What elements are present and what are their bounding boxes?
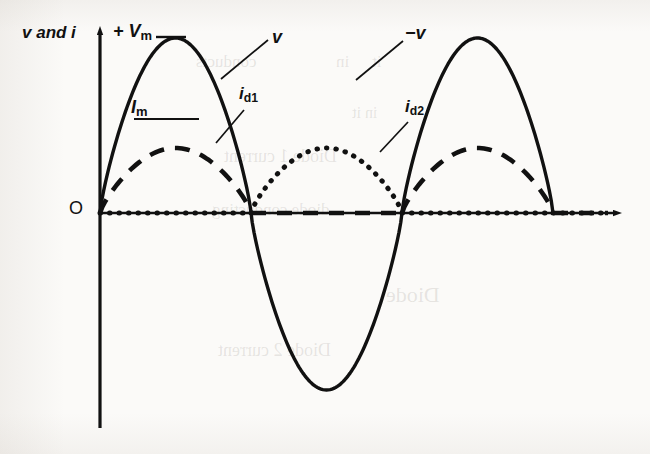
voltage-label-text: v — [272, 27, 282, 47]
diode2-current-label: id2 — [405, 98, 424, 117]
negative-voltage-label-text: −v — [405, 23, 426, 43]
diode1-current-label: id1 — [239, 85, 258, 104]
waveform-figure: conductsinitDiode 1 currentDiode 2 curre… — [0, 0, 650, 454]
y-axis-label-text: v and i — [22, 23, 76, 42]
negative-voltage-label: −v — [405, 24, 426, 42]
diode1-current-label-sub: d1 — [244, 91, 258, 105]
origin-label: O — [69, 199, 83, 217]
i-max-label-sub: m — [136, 104, 148, 119]
v-max-label-text: + V — [113, 21, 141, 41]
annotation-leaders — [134, 37, 408, 152]
leader-v — [221, 40, 268, 79]
leader-id1 — [216, 110, 244, 143]
leader-negv — [356, 41, 403, 80]
leader-id2 — [380, 122, 408, 152]
voltage-label: v — [272, 28, 282, 46]
diode2-current-label-sub: d2 — [410, 104, 424, 118]
v-max-label-sub: m — [141, 28, 153, 43]
axes — [100, 34, 614, 428]
waveform-plot — [0, 0, 650, 454]
v-max-label: + Vm — [113, 22, 152, 43]
i-max-label: Im — [131, 98, 148, 119]
y-axis-label: v and i — [22, 24, 76, 41]
